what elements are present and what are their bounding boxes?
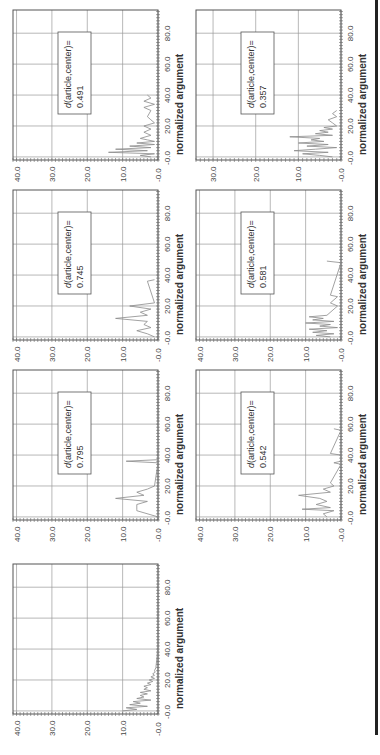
argument-tick-label: -0.0 xyxy=(346,511,355,525)
annotation-value: 0.745 xyxy=(75,265,85,288)
argument-tick-label: 80.0 xyxy=(163,385,172,401)
data-series xyxy=(116,460,158,517)
data-series xyxy=(290,111,337,157)
annotation-value: 0.542 xyxy=(258,445,268,468)
annotation-label: d(article,center)= xyxy=(246,40,256,108)
argument-tick-label: 60.0 xyxy=(163,610,172,626)
value-tick-label: 20.0 xyxy=(266,526,275,542)
argument-tick-label: 60.0 xyxy=(346,236,355,252)
panel-6: -0.010.020.030.040.0-0.020.040.060.080.0… xyxy=(183,360,373,538)
argument-tick-label: 40.0 xyxy=(163,267,172,283)
argument-tick-label: 80.0 xyxy=(163,25,172,41)
axis-label: normalized argument xyxy=(357,53,368,155)
annotation-value: 0.581 xyxy=(258,265,268,288)
argument-tick-label: 80.0 xyxy=(346,25,355,41)
panel-5: -0.010.020.030.040.0-0.020.040.060.080.0… xyxy=(183,180,373,358)
annotation-value: 0.491 xyxy=(75,85,85,108)
argument-tick-label: 60.0 xyxy=(163,236,172,252)
panel-2: -0.010.020.030.040.0-0.020.040.060.080.0… xyxy=(0,180,190,358)
panel-4: -0.010.020.030.0-0.020.040.060.080.0norm… xyxy=(183,0,373,178)
argument-tick-label: 60.0 xyxy=(163,416,172,432)
panel-1: -0.010.020.030.040.0-0.020.040.060.080.0… xyxy=(0,0,190,178)
argument-tick-label: 20.0 xyxy=(163,298,172,314)
argument-tick-label: -0.0 xyxy=(163,511,172,525)
panel-aggregate: -0.010.020.030.040.0-0.020.040.060.080.0… xyxy=(0,554,190,732)
argument-tick-label: 80.0 xyxy=(346,385,355,401)
argument-tick-label: 40.0 xyxy=(346,447,355,463)
value-tick-label: 10.0 xyxy=(302,526,311,542)
page-rule xyxy=(375,0,378,735)
argument-tick-label: 40.0 xyxy=(163,641,172,657)
grid xyxy=(13,564,158,714)
argument-tick-label: -0.0 xyxy=(346,331,355,345)
argument-tick-label: 60.0 xyxy=(346,56,355,72)
plot-frame xyxy=(13,564,158,714)
value-tick-label: 40.0 xyxy=(13,526,22,542)
data-series xyxy=(116,280,155,337)
value-tick-label: -0.0 xyxy=(337,528,346,542)
axis-label: normalized argument xyxy=(357,233,368,335)
argument-tick-label: 80.0 xyxy=(163,205,172,221)
argument-tick-label: -0.0 xyxy=(163,151,172,165)
data-series xyxy=(299,429,341,517)
value-tick-label: 40.0 xyxy=(196,526,205,542)
argument-tick-label: 60.0 xyxy=(346,416,355,432)
value-tick-label: -0.0 xyxy=(154,722,163,736)
argument-tick-label: 20.0 xyxy=(346,298,355,314)
argument-tick-label: 80.0 xyxy=(163,579,172,595)
annotation-label: d(article,center)= xyxy=(63,400,73,468)
argument-tick-label: -0.0 xyxy=(163,705,172,719)
annotation-label: d(article,center)= xyxy=(63,40,73,108)
annotation-label: d(article,center)= xyxy=(63,220,73,288)
argument-tick-label: 40.0 xyxy=(346,267,355,283)
argument-tick-label: 20.0 xyxy=(346,478,355,494)
argument-tick-label: 40.0 xyxy=(346,87,355,103)
value-tick-label: 10.0 xyxy=(119,526,128,542)
value-tick-label: -0.0 xyxy=(154,528,163,542)
annotation-value: 0.357 xyxy=(258,85,268,108)
annotation-label: d(article,center)= xyxy=(246,220,256,288)
value-tick-label: 10.0 xyxy=(119,720,128,736)
argument-tick-label: 60.0 xyxy=(163,56,172,72)
value-tick-label: 30.0 xyxy=(231,526,240,542)
argument-tick-label: -0.0 xyxy=(346,151,355,165)
data-series xyxy=(306,261,341,337)
value-tick-label: 30.0 xyxy=(48,720,57,736)
minor-ticks xyxy=(13,566,160,716)
annotation-label: d(article,center)= xyxy=(246,400,256,468)
argument-tick-label: 40.0 xyxy=(163,87,172,103)
value-tick-label: 30.0 xyxy=(48,526,57,542)
argument-tick-label: 20.0 xyxy=(163,118,172,134)
annotation-value: 0.795 xyxy=(75,445,85,468)
value-tick-label: 20.0 xyxy=(83,720,92,736)
value-tick-label: 20.0 xyxy=(83,526,92,542)
argument-tick-label: -0.0 xyxy=(163,331,172,345)
value-tick-label: 40.0 xyxy=(13,720,22,736)
panel-3: -0.010.020.030.040.0-0.020.040.060.080.0… xyxy=(0,360,190,538)
axis-label: normalized argument xyxy=(174,607,185,709)
axis-label: normalized argument xyxy=(357,413,368,515)
argument-tick-label: 20.0 xyxy=(163,672,172,688)
argument-tick-label: 80.0 xyxy=(346,205,355,221)
argument-tick-label: 20.0 xyxy=(163,478,172,494)
argument-tick-label: 20.0 xyxy=(346,118,355,134)
argument-tick-label: 40.0 xyxy=(163,447,172,463)
